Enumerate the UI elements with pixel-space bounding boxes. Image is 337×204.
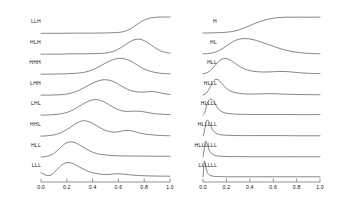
right-panel: HHLHLLHLLLHLLLLHLLLLLHLLLLLLLLLLLL 0.00.… <box>167 0 337 204</box>
trace-row: LLL <box>0 152 170 180</box>
x-tick-label: 0.4 <box>89 185 97 190</box>
ridgeline-figure: LLHHLHHHHLHHLHLHHLHLLLLL 0.00.20.40.60.8… <box>0 0 337 204</box>
x-tick-label: 0.2 <box>223 185 231 190</box>
x-tick-label: 0.8 <box>140 185 148 190</box>
x-tick-label: 0.0 <box>199 185 207 190</box>
x-tick-label: 0.4 <box>246 185 254 190</box>
x-tick-label: 0.8 <box>293 185 301 190</box>
left-panel-tick-labels: 0.00.20.40.60.81.0 <box>0 185 170 195</box>
right-panel-tick-labels: 0.00.20.40.60.81.0 <box>167 185 337 195</box>
trace-row: LLLLLL <box>167 152 337 180</box>
x-tick-label: 0.6 <box>269 185 277 190</box>
trace-curve-LLL <box>0 152 170 180</box>
x-tick-label: 0.2 <box>63 185 71 190</box>
x-tick-label: 0.0 <box>37 185 45 190</box>
trace-curve-LLLLLL <box>167 152 337 180</box>
x-tick-label: 1.0 <box>316 185 324 190</box>
left-panel: LLHHLHHHHLHHLHLHHLHLLLLL 0.00.20.40.60.8… <box>0 0 170 204</box>
x-tick-label: 0.6 <box>115 185 123 190</box>
